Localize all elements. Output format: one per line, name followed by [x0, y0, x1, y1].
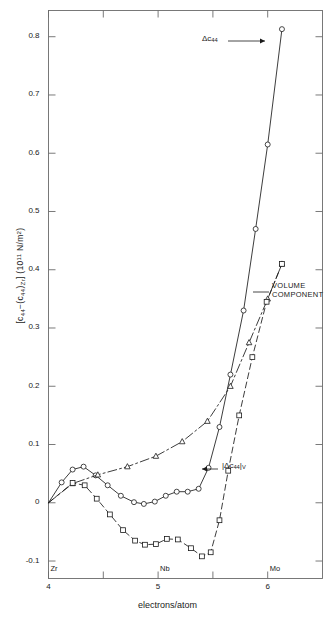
- data-point-delta-c44: [185, 489, 190, 494]
- data-point-abs-delta-c44-v: [133, 538, 138, 543]
- data-point-abs-delta-c44-v: [107, 512, 112, 517]
- x-tick-label: 4: [39, 582, 59, 591]
- data-point-volume-component: [246, 340, 252, 345]
- data-point-delta-c44: [131, 500, 136, 505]
- data-point-abs-delta-c44-v: [237, 413, 242, 418]
- data-point-delta-c44: [163, 493, 168, 498]
- element-label-nb: Nb: [160, 564, 170, 573]
- figure-container: [c44−(c44)Zr] (1011 N/m2) electrons/atom…: [0, 0, 335, 624]
- data-point-volume-component: [179, 439, 185, 444]
- y-tick-label: 0.7: [28, 89, 39, 98]
- data-point-delta-c44: [105, 483, 110, 488]
- data-point-abs-delta-c44-v: [94, 496, 99, 501]
- data-point-delta-c44: [141, 501, 146, 506]
- data-point-delta-c44: [253, 226, 258, 231]
- y-tick-label: 0.6: [28, 148, 39, 157]
- series-line-abs-delta-c44-v: [49, 264, 282, 556]
- data-point-abs-delta-c44-v: [189, 546, 194, 551]
- element-label-zr: Zr: [51, 564, 58, 573]
- x-tick-label: 5: [148, 582, 168, 591]
- data-point-abs-delta-c44-v: [164, 536, 169, 541]
- y-tick-label: 0.3: [28, 322, 39, 331]
- data-point-abs-delta-c44-v: [217, 518, 222, 523]
- data-series: [49, 27, 285, 559]
- data-point-abs-delta-c44-v: [250, 355, 255, 360]
- y-tick-label: -0.1: [26, 556, 40, 565]
- data-point-delta-c44: [241, 308, 246, 313]
- data-point-delta-c44: [196, 486, 201, 491]
- data-point-delta-c44: [70, 467, 75, 472]
- data-point-delta-c44: [81, 464, 86, 469]
- data-point-abs-delta-c44-v: [280, 262, 285, 267]
- annotation-volume-component: VOLUME COMPONENT: [272, 281, 323, 300]
- x-axis-label: electrons/atom: [0, 600, 335, 610]
- annotation-volume-line1: VOLUME: [272, 281, 323, 290]
- data-point-abs-delta-c44-v: [200, 554, 205, 559]
- data-point-delta-c44: [152, 499, 157, 504]
- data-point-abs-delta-c44-v: [175, 537, 180, 542]
- x-tick-label: 6: [258, 582, 278, 591]
- data-point-abs-delta-c44-v: [70, 481, 75, 486]
- annotation-volume-line2: COMPONENT: [272, 290, 323, 299]
- data-point-delta-c44: [174, 489, 179, 494]
- y-tick-label: 0: [35, 497, 39, 506]
- annotation-abs-delta-c44-v: |Δc44|V: [222, 461, 246, 470]
- y-tick-label: 0.4: [28, 264, 39, 273]
- data-point-abs-delta-c44-v: [154, 542, 159, 547]
- data-point-delta-c44: [118, 493, 123, 498]
- data-point-delta-c44: [228, 372, 233, 377]
- data-point-delta-c44: [59, 480, 64, 485]
- data-point-volume-component: [153, 453, 159, 458]
- y-axis-label: [c44−(c44)Zr] (1011 N/m2): [14, 196, 25, 356]
- data-point-delta-c44: [217, 425, 222, 430]
- data-point-abs-delta-c44-v: [264, 299, 269, 304]
- annotation-delta-c44: Δc44: [202, 34, 218, 43]
- element-label-mo: Mo: [270, 564, 280, 573]
- y-tick-label: 0.5: [28, 206, 39, 215]
- chart-canvas: [0, 0, 335, 624]
- y-tick-label: 0.2: [28, 381, 39, 390]
- y-axis-label-text: [c44−(c44)Zr] (1011 N/m2): [15, 228, 25, 324]
- y-tick-label: 0.8: [28, 31, 39, 40]
- annotation-delta-c44-text: Δc44: [202, 34, 218, 43]
- y-tick-label: 0.1: [28, 439, 39, 448]
- data-point-abs-delta-c44-v: [143, 542, 148, 547]
- data-point-abs-delta-c44-v: [82, 483, 87, 488]
- data-point-delta-c44: [265, 142, 270, 147]
- annotation-abs-delta-c44-v-text: |Δc44|V: [222, 461, 246, 470]
- data-point-abs-delta-c44-v: [121, 528, 126, 533]
- series-line-delta-c44: [49, 29, 282, 504]
- data-point-abs-delta-c44-v: [208, 550, 213, 555]
- data-point-delta-c44: [279, 27, 284, 32]
- annotation-leaders: [202, 39, 269, 472]
